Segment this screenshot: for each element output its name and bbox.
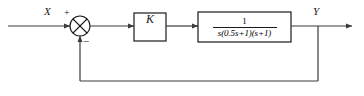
output-signal-label: Y <box>313 6 319 17</box>
input-signal-label: X <box>44 6 51 17</box>
gain-block-label: K <box>134 13 166 25</box>
transfer-function-denominator: s(0.5s+1)(s+1) <box>215 28 275 38</box>
diagram-canvas <box>0 0 364 96</box>
block-diagram: X Y + − K 1 s(0.5s+1)(s+1) <box>0 0 364 96</box>
summing-junction-minus-label: − <box>83 36 89 47</box>
transfer-function-numerator: 1 <box>238 17 251 27</box>
transfer-function-block: 1 s(0.5s+1)(s+1) <box>198 12 291 42</box>
summing-junction-plus-label: + <box>64 8 70 18</box>
transfer-function-fraction: 1 s(0.5s+1)(s+1) <box>213 17 277 38</box>
gain-block: K <box>134 13 166 41</box>
